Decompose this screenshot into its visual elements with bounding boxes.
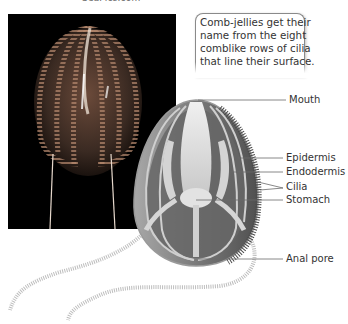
label-endodermis: Endodermis [286, 166, 345, 177]
label-mouth: Mouth [289, 94, 320, 105]
label-anal-pore: Anal pore [286, 253, 334, 264]
label-cilia: Cilia [286, 181, 307, 192]
label-epidermis: Epidermis [286, 152, 336, 163]
label-stomach: Stomach [286, 194, 330, 205]
